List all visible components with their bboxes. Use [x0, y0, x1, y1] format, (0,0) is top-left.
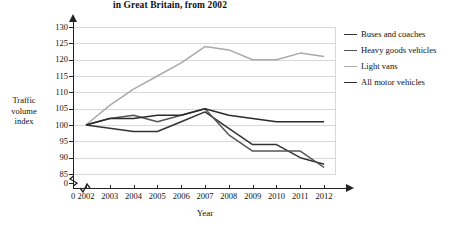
axis-break-icon	[70, 176, 77, 186]
legend-item[interactable]: All motor vehicles	[344, 74, 459, 90]
chart-legend: Buses and coachesHeavy goods vehiclesLig…	[344, 26, 459, 90]
legend-line-swatch-icon	[344, 50, 357, 51]
axis-break-icon	[80, 184, 90, 192]
legend-line-swatch-icon	[344, 82, 357, 83]
legend-item[interactable]: Heavy goods vehicles	[344, 42, 459, 58]
legend-item-label: Light vans	[361, 61, 398, 71]
chart-container: in Great Britain, from 2002 Traffic volu…	[0, 0, 459, 227]
legend-item-label: All motor vehicles	[361, 77, 425, 87]
legend-line-swatch-icon	[344, 66, 357, 67]
x-axis-label: Year	[70, 208, 340, 218]
legend-item-label: Buses and coaches	[361, 29, 425, 39]
legend-item-label: Heavy goods vehicles	[361, 45, 436, 55]
legend-line-swatch-icon	[344, 34, 357, 35]
legend-item[interactable]: Buses and coaches	[344, 26, 459, 42]
legend-item[interactable]: Light vans	[344, 58, 459, 74]
